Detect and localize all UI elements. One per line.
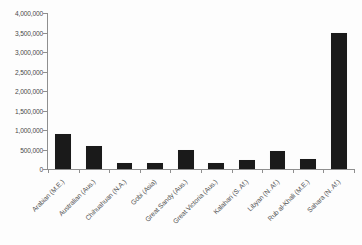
y-axis-tick-label: 2,500,000 xyxy=(0,68,43,75)
x-axis-tick-mark xyxy=(323,170,324,173)
x-axis-tick-mark xyxy=(140,170,141,173)
x-axis-tick-mark xyxy=(354,170,355,173)
x-axis-tick-mark xyxy=(293,170,294,173)
y-axis-tick-mark xyxy=(43,72,47,73)
y-axis-tick-label: 4,000,000 xyxy=(0,10,43,17)
y-axis-tick-label: 3,000,000 xyxy=(0,49,43,56)
x-axis-tick-mark xyxy=(48,170,49,173)
y-axis-tick-mark xyxy=(43,13,47,14)
bar[interactable] xyxy=(117,163,133,169)
x-axis-tick-mark xyxy=(109,170,110,173)
y-axis-tick-mark xyxy=(43,91,47,92)
y-axis-tick-mark xyxy=(43,52,47,53)
x-axis-tick-mark xyxy=(232,170,233,173)
y-axis-tick-label: 3,500,000 xyxy=(0,29,43,36)
y-axis-tick-label: 2,000,000 xyxy=(0,88,43,95)
bar[interactable] xyxy=(300,159,316,169)
x-axis-tick-mark xyxy=(201,170,202,173)
y-axis-tick-mark xyxy=(43,111,47,112)
bar-chart: 0500,0001,000,0001,500,0002,000,0002,500… xyxy=(0,0,362,245)
x-axis-tick-mark xyxy=(170,170,171,173)
y-axis-tick-mark xyxy=(43,150,47,151)
y-axis: 0500,0001,000,0001,500,0002,000,0002,500… xyxy=(0,0,46,180)
bar[interactable] xyxy=(147,163,163,169)
y-axis-tick-label: 500,000 xyxy=(0,146,43,153)
y-axis-tick-label: 1,500,000 xyxy=(0,107,43,114)
bar[interactable] xyxy=(178,150,194,170)
y-axis-tick-mark xyxy=(43,33,47,34)
bar[interactable] xyxy=(86,146,102,169)
bar[interactable] xyxy=(270,151,286,169)
bar[interactable] xyxy=(55,134,71,169)
y-axis-tick-mark xyxy=(43,169,47,170)
y-axis-tick-label: 0 xyxy=(0,166,43,173)
bar[interactable] xyxy=(331,33,347,170)
bar[interactable] xyxy=(239,160,255,169)
plot-area xyxy=(48,13,354,169)
bar[interactable] xyxy=(208,163,224,169)
y-axis-tick-label: 1,000,000 xyxy=(0,127,43,134)
x-axis-tick-mark xyxy=(262,170,263,173)
y-axis-tick-mark xyxy=(43,130,47,131)
x-axis-tick-mark xyxy=(79,170,80,173)
bar-series xyxy=(48,13,354,169)
